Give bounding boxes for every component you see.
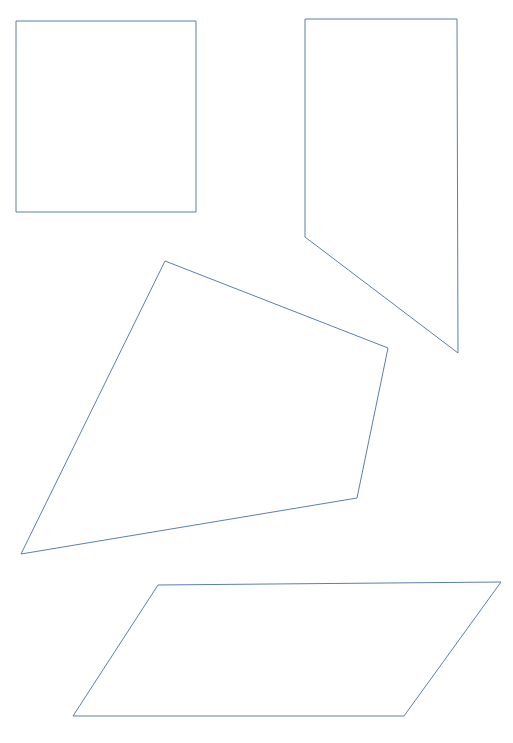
diagram-canvas bbox=[0, 0, 513, 743]
shapes-svg bbox=[0, 0, 513, 743]
canvas-background bbox=[0, 0, 513, 743]
